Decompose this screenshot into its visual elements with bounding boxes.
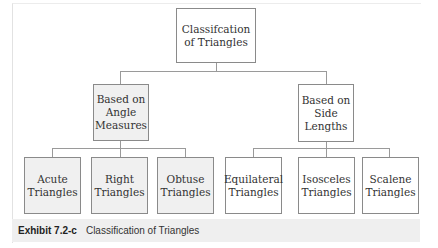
isosceles-triangles-label: Isosceles Triangles [299,173,354,199]
scalene-triangles-label: Scalene Triangles [363,173,418,199]
connector-to-isosceles [326,148,327,157]
connector-root-down [216,63,217,71]
connector-to-angle-group [120,71,121,84]
equilateral-triangles-node: Equilateral Triangles [225,157,282,214]
obtuse-triangles-label: Obtuse Triangles [158,173,213,199]
side-lengths-label: Based on Side Lengths [299,94,353,133]
connector-angle-down [120,141,121,148]
acute-triangles-node: Acute Triangles [24,157,81,214]
connector-to-acute [52,148,53,157]
obtuse-triangles-node: Obtuse Triangles [157,157,214,214]
angle-measures-node: Based on Angle Measures [93,84,149,141]
equilateral-triangles-label: Equilateral Triangles [224,173,283,199]
exhibit-number: Exhibit 7.2-c [18,225,77,236]
scalene-triangles-node: Scalene Triangles [362,157,419,214]
connector-to-scalene [389,148,390,157]
angle-measures-label: Based on Angle Measures [94,93,148,132]
connector-side-horizontal [253,148,390,149]
right-triangles-node: Right Triangles [91,157,148,214]
caption-title: Classification of Triangles [86,225,199,236]
connector-to-side-group [326,71,327,84]
root-node-label: Classifcation of Triangles [177,23,255,49]
connector-angle-horizontal [52,148,186,149]
acute-triangles-label: Acute Triangles [25,173,80,199]
connector-to-right [120,148,121,157]
side-lengths-node: Based on Side Lengths [298,84,354,142]
figure-caption: Exhibit 7.2-c Classification of Triangle… [12,219,420,242]
root-node: Classifcation of Triangles [176,8,256,63]
right-triangles-label: Right Triangles [92,173,147,199]
isosceles-triangles-node: Isosceles Triangles [298,157,355,214]
connector-to-obtuse [185,148,186,157]
connector-to-equilateral [253,148,254,157]
connector-root-horizontal [120,71,326,72]
